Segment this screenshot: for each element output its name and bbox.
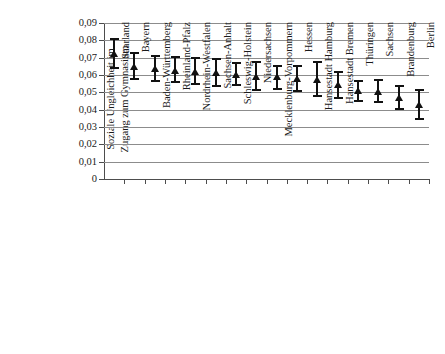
error-bar-cap-upper: [110, 38, 119, 40]
y-axis-tick-mark: [99, 58, 104, 59]
x-axis-category-label: Brandenburg: [404, 22, 418, 182]
data-point-marker: [110, 50, 118, 57]
x-axis-category-label: Bayern: [139, 22, 153, 182]
y-axis-tick-labels: 0,090,080,070,060,050,040,030,020,010: [60, 16, 100, 186]
x-axis-category-label: Hansestadt Bremen: [343, 22, 357, 182]
y-axis-tick-label: 0,07: [79, 53, 97, 63]
y-axis-tick-label: 0,04: [79, 105, 97, 115]
y-axis-tick-mark: [99, 110, 104, 111]
y-axis-tick-mark: [99, 162, 104, 163]
y-axis-tick-mark: [99, 144, 104, 145]
x-axis-category-label: Mecklenburg-Vorpommern: [282, 22, 296, 182]
x-axis-category-label: Thüringen: [363, 22, 377, 182]
chart-figure: Soziale Ungleichheit im Zugang zum Gymna…: [0, 0, 445, 354]
x-axis-category-label: Sachsen: [383, 22, 397, 182]
x-axis-category-label: Sachsen-Anhalt: [221, 22, 235, 182]
x-axis-category-label: Nordrhein-Westfalen: [200, 22, 214, 182]
y-axis-tick-mark: [99, 179, 104, 180]
y-axis-tick-mark: [99, 127, 104, 128]
y-axis-title: Soziale Ungleichheit im Zugang zum Gymna…: [18, 18, 64, 180]
y-axis-tick-mark: [99, 75, 104, 76]
x-axis-category-label: Rheinland-Pfalz: [180, 22, 194, 182]
x-axis-category-label: Niedersachsen: [261, 22, 275, 182]
y-axis-line: [104, 23, 105, 179]
y-axis-tick-label: 0,03: [79, 122, 97, 132]
x-axis-category-label: Saarland: [119, 22, 133, 182]
y-axis-tick-label: 0,09: [79, 18, 97, 28]
error-bar-cap-lower: [110, 67, 119, 69]
y-axis-tick-label: 0,02: [79, 139, 97, 149]
y-axis-tick-label: 0,05: [79, 87, 97, 97]
x-axis-category-labels: SaarlandBayernBaden-WürttembergRheinland…: [104, 182, 429, 342]
y-axis-tick-label: 0,01: [79, 157, 97, 167]
y-axis-tick-label: 0,06: [79, 70, 97, 80]
x-axis-category-label: Baden-Württemberg: [160, 22, 174, 182]
y-axis-tick-mark: [99, 40, 104, 41]
x-axis-category-label: Hansestadt Hamburg: [322, 22, 336, 182]
y-axis-tick-label: 0,08: [79, 35, 97, 45]
x-axis-category-label: Hessen: [302, 22, 316, 182]
y-axis-tick-label: 0: [92, 174, 97, 184]
x-axis-category-label: Berlin: [424, 22, 438, 182]
x-axis-category-label: Schleswig-Holstein: [241, 22, 255, 182]
y-axis-tick-mark: [99, 23, 104, 24]
y-axis-tick-mark: [99, 92, 104, 93]
